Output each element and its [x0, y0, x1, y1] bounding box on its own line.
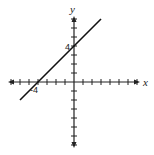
x-intercept-label: -4 — [30, 85, 38, 95]
y-axis-label: y — [69, 3, 75, 15]
coordinate-plane: y x -4 4 — [0, 0, 154, 155]
y-intercept-label: 4 — [65, 42, 70, 52]
x-axis-label: x — [142, 76, 148, 88]
